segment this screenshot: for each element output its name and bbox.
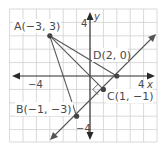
y-tick-neg4: −4 xyxy=(76,123,91,134)
point-labels: A(−3, 3) D(2, 0) C(1, −1) B(−1, −3) xyxy=(13,19,153,116)
point-a xyxy=(47,33,52,38)
y-axis-label: y xyxy=(93,11,101,22)
point-c xyxy=(101,87,106,92)
y-axis-up-arrow-icon xyxy=(87,12,94,20)
x-axis-label: x xyxy=(146,79,153,90)
x-axis-left-arrow-icon xyxy=(12,73,20,80)
label-c: C(1, −1) xyxy=(107,90,153,103)
point-d xyxy=(114,73,119,78)
label-a: A(−3, 3) xyxy=(14,20,60,33)
label-d: D(2, 0) xyxy=(93,49,131,62)
x-tick-4: 4 xyxy=(138,79,144,90)
point-b xyxy=(74,114,79,119)
y-tick-4: 4 xyxy=(81,18,87,29)
x-tick-neg4: −4 xyxy=(28,79,43,90)
label-b: B(−1, −3) xyxy=(16,103,72,116)
coordinate-plane-diagram: A(−3, 3) D(2, 0) C(1, −1) B(−1, −3) −4 4… xyxy=(0,0,166,145)
